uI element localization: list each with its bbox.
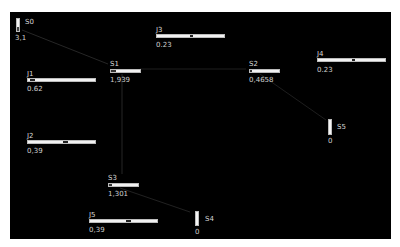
j5-slider-knob[interactable] (126, 220, 131, 222)
s2-value: 0,4658 (249, 76, 274, 84)
j1-value: 0.62 (27, 85, 43, 93)
j4-slider-knob[interactable] (352, 59, 355, 61)
s0-meter (16, 18, 20, 32)
s5-label: S5 (337, 123, 346, 131)
j5-label: J5 (89, 211, 96, 219)
s2-meter (249, 69, 280, 73)
j1-label: J1 (27, 70, 34, 78)
s5-meter (328, 119, 332, 135)
j3-label: J3 (156, 26, 163, 34)
s4-meter (195, 211, 199, 226)
j2-value: 0,39 (27, 147, 43, 155)
s3-meter (108, 183, 139, 187)
j5-value: 0,39 (89, 226, 105, 234)
s1-label: S1 (110, 60, 119, 68)
j3-slider[interactable] (156, 34, 225, 38)
wire-s3-s4 (120, 188, 190, 212)
j5-slider[interactable] (89, 219, 158, 223)
j4-slider[interactable] (317, 58, 386, 62)
s3-label: S3 (108, 174, 117, 182)
j4-value: 0.23 (317, 66, 333, 74)
s4-value: 0 (195, 228, 199, 236)
j2-slider-knob[interactable] (63, 141, 68, 143)
s1-value: 1,939 (110, 76, 130, 84)
s5-value: 0 (328, 137, 332, 145)
j3-slider-knob[interactable] (190, 35, 193, 37)
s0-value: 3,1 (15, 34, 26, 42)
j1-slider[interactable] (27, 78, 96, 82)
j2-label: J2 (27, 132, 34, 140)
connection-wires (10, 12, 391, 239)
patch-canvas: S0 3,1 S1 1,939 J1 0.62 J3 0.23 S2 0,465… (10, 12, 391, 239)
j2-slider[interactable] (27, 140, 96, 144)
j4-label: J4 (317, 50, 324, 58)
s3-value: 1,301 (108, 190, 128, 198)
j1-slider-knob[interactable] (30, 79, 35, 81)
wire-s0-s1 (22, 30, 108, 64)
s2-label: S2 (249, 60, 258, 68)
s0-label: S0 (25, 18, 34, 26)
s4-label: S4 (205, 215, 214, 223)
s1-meter (110, 69, 141, 73)
j3-value: 0.23 (156, 41, 172, 49)
